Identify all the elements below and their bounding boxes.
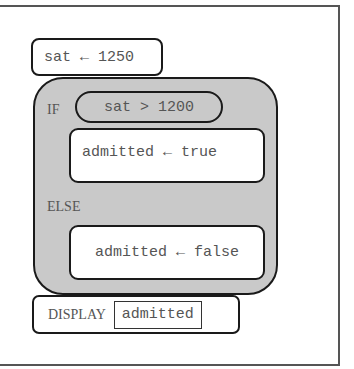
then-statement-text: admitted ← true [82,144,217,161]
else-keyword: ELSE [47,199,80,215]
condition-pill: sat > 1200 [75,91,223,123]
if-else-block: IF sat > 1200 admitted ← true ELSE admit… [33,77,278,295]
then-statement-block: admitted ← true [69,128,265,183]
else-statement-block: admitted ← false [69,225,265,280]
display-block: DISPLAY admitted [32,295,240,334]
display-keyword: DISPLAY [48,307,106,323]
assignment-text: sat ← 1250 [44,49,134,66]
display-argument: admitted [114,301,202,329]
if-keyword: IF [47,102,59,118]
condition-text: sat > 1200 [104,99,194,116]
else-statement-text: admitted ← false [95,244,239,261]
assignment-block-sat: sat ← 1250 [31,38,163,76]
